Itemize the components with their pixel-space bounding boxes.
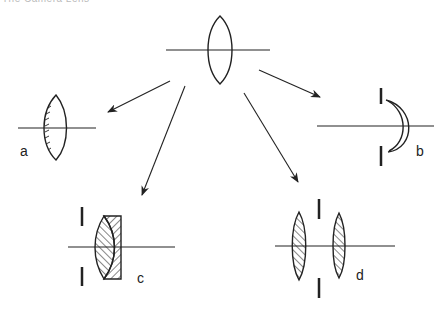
arrow-to-a: [108, 81, 170, 112]
arrows: [108, 70, 320, 195]
front-lens-icon: [292, 212, 306, 280]
lens-diagram: a b c d: [0, 0, 447, 311]
label-d: d: [356, 267, 364, 283]
variant-c: c: [68, 207, 175, 286]
variant-a: a: [18, 95, 96, 160]
central-lens: [166, 16, 270, 84]
label-c: c: [137, 270, 144, 286]
label-a: a: [20, 143, 28, 159]
arrow-to-d: [244, 93, 298, 182]
label-b: b: [416, 143, 424, 159]
arrow-to-b: [259, 70, 320, 97]
variant-b: b: [317, 88, 434, 166]
rear-lens-icon: [333, 213, 345, 278]
variant-d: d: [275, 199, 395, 298]
arrow-to-c: [142, 86, 185, 195]
